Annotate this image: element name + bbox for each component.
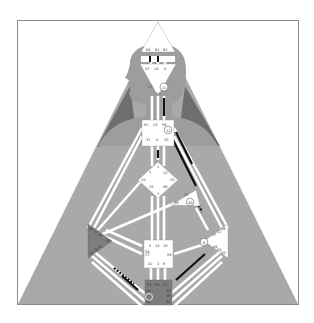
gate-40: 40 [188, 201, 192, 205]
gate-42: 42 [148, 262, 152, 266]
gate-63: 63 [163, 48, 167, 52]
gate-41: 41 [166, 300, 170, 304]
gate-2: 2 [157, 192, 159, 196]
gate-50: 50 [106, 239, 110, 243]
gate-60: 60 [155, 283, 159, 287]
gate-31: 31 [146, 138, 150, 142]
gate-3: 3 [157, 262, 159, 266]
gate-28: 28 [94, 248, 98, 252]
gate-12: 12 [166, 129, 170, 133]
gate-61: 61 [155, 48, 159, 52]
gate-6: 6 [203, 241, 205, 245]
gate-29: 29 [163, 244, 167, 248]
gate-25: 25 [170, 178, 174, 182]
gate-11: 11 [162, 86, 166, 90]
gate-24: 24 [154, 67, 158, 71]
gate-37: 37 [212, 233, 216, 237]
gate-33: 33 [164, 138, 168, 142]
gate-32: 32 [98, 245, 102, 249]
gate-19: 19 [166, 289, 170, 293]
gate-10: 10 [141, 178, 145, 182]
gate-43: 43 [156, 92, 160, 96]
gate-1: 1 [157, 165, 159, 169]
gate-9: 9 [163, 262, 165, 266]
gate-7: 7 [149, 171, 151, 175]
bodygraph-diagram: 64 61 63 47 24 4 17 11 43 62 23 56 12 31… [0, 0, 314, 323]
gate-27: 27 [145, 253, 149, 257]
gate-46: 46 [163, 185, 167, 189]
gate-4: 4 [164, 67, 166, 71]
gate-21: 21 [184, 193, 188, 197]
gate-53: 53 [147, 283, 151, 287]
gate-8: 8 [156, 138, 158, 142]
gate-26: 26 [174, 201, 178, 205]
gate-30: 30 [221, 251, 225, 255]
gate-18: 18 [89, 251, 93, 255]
gate-22: 22 [217, 230, 221, 234]
gate-64: 64 [146, 48, 150, 52]
gate-15: 15 [149, 185, 153, 189]
gate-54: 54 [146, 289, 150, 293]
gate-48: 48 [89, 227, 93, 231]
gate-52: 52 [163, 283, 167, 287]
gate-56: 56 [162, 123, 166, 127]
gate-39: 39 [166, 294, 170, 298]
gate-13: 13 [163, 171, 167, 175]
gate-59: 59 [167, 253, 171, 257]
gate-5: 5 [149, 244, 151, 248]
gate-14: 14 [155, 244, 159, 248]
gate-17: 17 [148, 85, 152, 89]
gate-44: 44 [98, 233, 102, 237]
gate-23: 23 [153, 123, 157, 127]
gate-62: 62 [144, 123, 148, 127]
gate-38: 38 [146, 300, 150, 304]
gate-36: 36 [221, 227, 225, 231]
gate-47: 47 [145, 67, 149, 71]
